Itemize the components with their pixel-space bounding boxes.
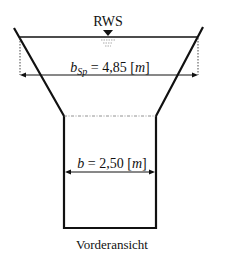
water-level-marker-icon [103, 30, 113, 36]
bottom-width-label: b = 2,50 [m] [77, 156, 146, 171]
water-ripple-icon [101, 40, 115, 46]
diagram-caption: Vorderansicht [76, 237, 148, 252]
water-level-label: RWS [93, 14, 123, 29]
top-width-label: bSp = 4,85 [m] [70, 60, 149, 77]
channel-outline [14, 27, 203, 228]
channel-cross-section-diagram: RWS bSp = 4,85 [m] b = 2,50 [m] Vorderan… [0, 0, 232, 262]
